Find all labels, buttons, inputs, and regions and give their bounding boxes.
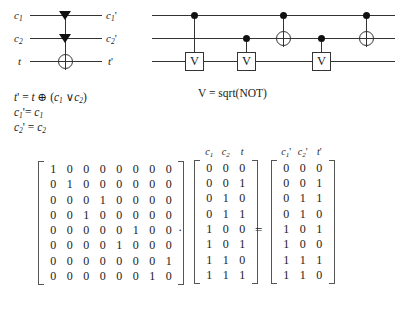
figure-root: c1 c2 t c1' c2' t' t' = t ⊕ (c1 ∨c2) c1'… <box>0 0 405 324</box>
input-matrix-bracket: 000001010011100101110111 <box>194 160 258 284</box>
bracket-right <box>329 160 335 284</box>
matrix-cell: 0 <box>128 208 145 223</box>
matrix-cell: 1 <box>201 268 218 283</box>
matrix-cell: 0 <box>62 254 79 269</box>
matrix-cell: 0 <box>78 269 95 284</box>
matrix-cell: 0 <box>278 176 295 191</box>
matrix-cell: 0 <box>295 176 312 191</box>
matrix-cell: 1 <box>278 237 295 252</box>
input-matrix: c1c2t 000001010011100101110111 <box>194 146 258 284</box>
matrix-cell: 0 <box>161 238 178 253</box>
matrix-cell: 0 <box>111 162 128 177</box>
matrix-cell: 0 <box>144 208 161 223</box>
matrix-cell: 0 <box>278 207 295 222</box>
matrix-cell: 0 <box>144 193 161 208</box>
matrix-cell: 1 <box>278 253 295 268</box>
matrix-cell: 0 <box>218 222 235 237</box>
left-circuit-input-label-c2: c2 <box>14 32 23 46</box>
matrix-cell: 0 <box>218 176 235 191</box>
matrix-cell: 1 <box>201 253 218 268</box>
matrix-cell: 0 <box>128 254 145 269</box>
right-circuit-v-gate-1: V <box>185 52 204 71</box>
multiply-operator: · <box>178 222 182 238</box>
right-circuit-xor-target-2 <box>359 31 374 46</box>
matrix-cell: 1 <box>62 177 79 192</box>
matrix-cell: 1 <box>295 253 312 268</box>
input-matrix-grid: 000001010011100101110111 <box>200 160 252 284</box>
matrix-cell: 1 <box>128 223 145 238</box>
matrix-cell: 0 <box>111 223 128 238</box>
matrix-cell: 1 <box>45 162 62 177</box>
matrix-cell: 0 <box>62 223 79 238</box>
equals-operator: = <box>255 222 262 238</box>
matrix-cell: 0 <box>161 193 178 208</box>
matrix-cell: 0 <box>218 237 235 252</box>
matrix-column-header: c2 <box>218 146 235 159</box>
output-matrix: c1'c2't' 000001011010101100111110 <box>271 146 335 284</box>
matrix-column-header: c2' <box>295 146 312 159</box>
matrix-cell: 0 <box>111 269 128 284</box>
matrix-cell: 0 <box>62 269 79 284</box>
matrix-cell: 1 <box>278 222 295 237</box>
equation-c1-prime: c1'= c1 <box>14 106 43 120</box>
matrix-cell: 1 <box>78 208 95 223</box>
matrix-cell: 0 <box>278 191 295 206</box>
matrix-cell: 0 <box>128 238 145 253</box>
matrix-cell: 0 <box>45 193 62 208</box>
matrix-cell: 0 <box>62 162 79 177</box>
matrix-cell: 1 <box>234 207 251 222</box>
left-circuit-output-label-tp: t' <box>108 55 113 67</box>
matrix-cell: 0 <box>311 207 328 222</box>
matrix-cell: 0 <box>311 268 328 283</box>
matrix-cell: 0 <box>78 193 95 208</box>
matrix-cell: 0 <box>45 269 62 284</box>
matrix-cell: 1 <box>311 222 328 237</box>
equation-c2-prime: c2' = c2 <box>14 121 46 135</box>
left-circuit-output-label-c2p: c2' <box>106 32 117 46</box>
left-circuit-output-label-c1p: c1' <box>106 9 117 23</box>
matrix-cell: 0 <box>45 223 62 238</box>
matrix-cell: 0 <box>45 238 62 253</box>
input-matrix-headers: c1c2t <box>201 146 251 159</box>
matrix-cell: 0 <box>234 253 251 268</box>
matrix-cell: 0 <box>78 238 95 253</box>
matrix-cell: 0 <box>95 162 112 177</box>
matrix-cell: 0 <box>201 176 218 191</box>
matrix-cell: 0 <box>95 177 112 192</box>
matrix-cell: 0 <box>128 177 145 192</box>
v-gate-definition-note: V = sqrt(NOT) <box>198 87 267 99</box>
matrix-cell: 1 <box>218 191 235 206</box>
matrix-cell: 0 <box>78 223 95 238</box>
matrix-cell: 0 <box>218 161 235 176</box>
matrix-cell: 1 <box>234 268 251 283</box>
matrix-cell: 0 <box>311 161 328 176</box>
matrix-cell: 0 <box>62 208 79 223</box>
permutation-matrix-grid: 1000000001000000000100000010000000000100… <box>44 161 178 285</box>
left-circuit-input-label-c1: c1 <box>14 9 23 23</box>
matrix-cell: 0 <box>95 238 112 253</box>
right-circuit-wire-1 <box>152 15 395 16</box>
matrix-cell: 0 <box>111 208 128 223</box>
right-circuit-control-dot-1 <box>191 12 198 19</box>
matrix-cell: 0 <box>234 191 251 206</box>
matrix-cell: 0 <box>161 208 178 223</box>
left-circuit-triangle-control-2 <box>59 34 71 43</box>
matrix-cell: 0 <box>78 254 95 269</box>
output-matrix-headers: c1'c2't' <box>278 146 328 159</box>
matrix-cell: 0 <box>111 254 128 269</box>
matrix-cell: 0 <box>144 162 161 177</box>
matrix-cell: 1 <box>218 253 235 268</box>
matrix-cell: 0 <box>144 177 161 192</box>
right-circuit-control-dot-3 <box>280 12 287 19</box>
matrix-cell: 0 <box>95 254 112 269</box>
matrix-cell: 1 <box>311 191 328 206</box>
matrix-column-header: t' <box>311 146 328 159</box>
matrix-cell: 0 <box>234 161 251 176</box>
matrix-cell: 0 <box>201 191 218 206</box>
matrix-cell: 1 <box>295 207 312 222</box>
matrix-cell: 1 <box>311 176 328 191</box>
matrix-cell: 0 <box>295 161 312 176</box>
matrix-cell: 0 <box>111 177 128 192</box>
matrix-cell: 0 <box>78 162 95 177</box>
matrix-cell: 1 <box>201 237 218 252</box>
